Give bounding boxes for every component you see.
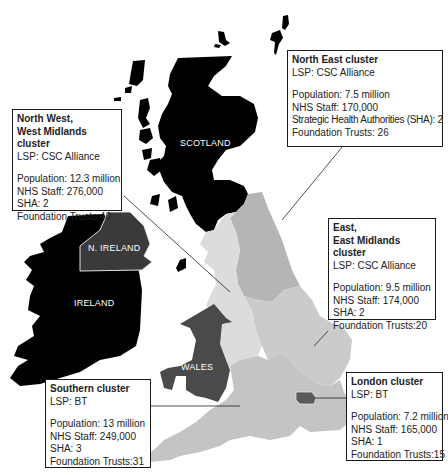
cluster-trusts: Foundation Trusts:40 [17,211,117,224]
label-ireland: IRELAND [74,298,114,308]
region-london [296,392,316,404]
cluster-sha: SHA: 3 [50,443,146,456]
cluster-sha: SHA: 2 [333,307,431,320]
cluster-title-line-2: East Midlands cluster [333,235,431,260]
cluster-sha: Strategic Health Authorities (SHA): 2 [292,114,438,127]
region-north-east [230,192,300,302]
cluster-staff: NHS Staff: 174,000 [333,295,431,308]
cluster-staff: NHS Staff: 165,000 [351,424,438,437]
cluster-trusts: Foundation Trusts:31 [50,456,146,469]
cluster-sha: SHA: 2 [17,198,117,211]
cluster-trusts: Foundation Trusts:15 [351,449,438,462]
cluster-title: Southern cluster [50,383,146,396]
cluster-sha: SHA: 1 [351,436,438,449]
cluster-box-london: London cluster LSP: BT Population: 7.2 m… [346,372,443,461]
cluster-lsp: LSP: CSC Alliance [292,67,438,80]
cluster-lsp: LSP: CSC Alliance [333,260,431,273]
label-scotland: SCOTLAND [180,138,231,148]
cluster-population: Population: 12.3 million [17,173,117,186]
cluster-staff: NHS Staff: 276,000 [17,186,117,199]
isle-of-man [176,258,186,272]
cluster-title: North East cluster [292,54,438,67]
cluster-title: London cluster [351,376,438,389]
cluster-box-north-west-west-midlands: North West, West Midlands cluster LSP: C… [12,109,122,211]
cluster-population: Population: 7.2 million [351,411,438,424]
cluster-staff: NHS Staff: 249,000 [50,431,146,444]
cluster-trusts: Foundation Trusts: 26 [292,127,438,140]
cluster-title-line-2: West Midlands cluster [17,126,117,151]
northern-isles [214,15,289,55]
cluster-lsp: LSP: CSC Alliance [17,151,117,164]
cluster-title-line-1: North West, [17,113,117,126]
cluster-box-north-east: North East cluster LSP: CSC Alliance Pop… [287,50,443,147]
cluster-population: Population: 13 million [50,418,146,431]
cluster-lsp: LSP: BT [351,389,438,402]
cluster-lsp: LSP: BT [50,396,146,409]
cluster-trusts: Foundation Trusts:20 [333,320,431,333]
cluster-box-southern: Southern cluster LSP: BT Population: 13 … [45,379,151,468]
label-n-ireland: N. IRELAND [88,243,141,253]
region-wales [160,304,232,402]
cluster-population: Population: 9.5 million [333,282,431,295]
label-wales: WALES [181,362,213,372]
cluster-staff: NHS Staff: 170,000 [292,102,438,115]
cluster-box-east-east-midlands: East, East Midlands cluster LSP: CSC All… [328,218,436,320]
cluster-population: Population: 7.5 million [292,89,438,102]
cluster-title-line-1: East, [333,222,431,235]
